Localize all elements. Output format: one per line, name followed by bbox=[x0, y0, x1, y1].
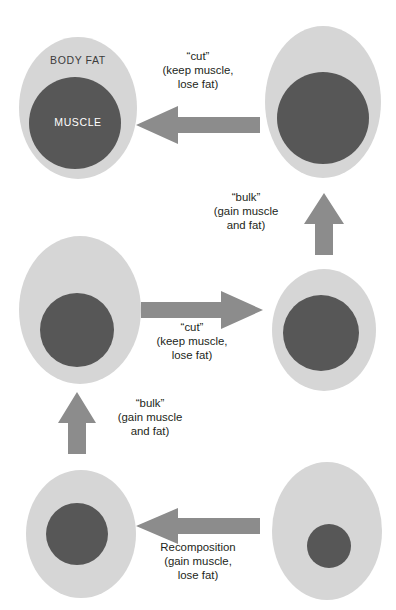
arrow-bulk-right bbox=[304, 193, 344, 255]
arrow-bulk-left bbox=[58, 392, 96, 454]
arrow-cut-middle-label: “cut” (keep muscle, lose fat) bbox=[140, 320, 244, 363]
body-composition-diagram: BODY FAT MUSCLE “cut” (keep muscle, lose… bbox=[0, 0, 396, 610]
muscle-circle bbox=[283, 295, 359, 371]
arrow-recomposition-label: Recomposition (gain muscle, lose fat) bbox=[144, 540, 252, 583]
muscle-circle bbox=[277, 72, 369, 164]
arrow-bulk-right-label: “bulk” (gain muscle and fat) bbox=[196, 190, 296, 233]
figure-mid-bulked bbox=[19, 236, 141, 384]
body-fat-label: BODY FAT bbox=[19, 54, 137, 66]
arrow-recomposition bbox=[136, 508, 260, 544]
muscle-label: MUSCLE bbox=[19, 116, 137, 128]
figure-mid-lean bbox=[272, 269, 376, 391]
arrow-cut-top-label: “cut” (keep muscle, lose fat) bbox=[150, 49, 246, 92]
figure-recomposed bbox=[26, 470, 136, 598]
figure-bulked-large bbox=[265, 26, 381, 178]
figure-lean-muscular: BODY FAT MUSCLE bbox=[19, 37, 137, 179]
figure-untrained bbox=[272, 462, 382, 600]
muscle-circle bbox=[40, 293, 114, 367]
muscle-circle bbox=[46, 503, 108, 565]
arrow-cut-top bbox=[136, 106, 260, 144]
muscle-circle bbox=[307, 524, 351, 568]
arrow-bulk-left-label: “bulk” (gain muscle and fat) bbox=[100, 396, 200, 439]
